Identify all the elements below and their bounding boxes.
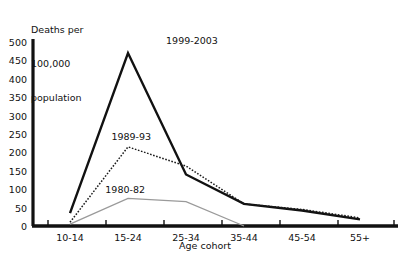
series-line: [70, 198, 244, 226]
series-lines: [70, 53, 360, 226]
series-line: [70, 147, 360, 222]
x-axis-title: Age cohort: [145, 240, 265, 251]
series-line: [70, 53, 360, 219]
plot-area: [0, 0, 405, 257]
axis-tick-marks: [48, 220, 394, 225]
line-chart: Deaths per 100,000 population 0501001502…: [0, 0, 405, 257]
axes: [32, 39, 398, 226]
